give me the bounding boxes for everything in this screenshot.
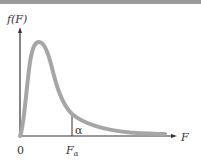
- x-axis-arrow-icon: [171, 134, 177, 138]
- critical-value-base: F: [66, 144, 74, 157]
- x-axis-label: F: [181, 132, 189, 143]
- f-distribution-plot: [0, 0, 201, 162]
- critical-value-subscript: α: [74, 150, 79, 158]
- x-tick-zero: 0: [17, 145, 24, 156]
- y-axis-label: f(F): [7, 14, 27, 25]
- y-axis-arrow-icon: [18, 27, 22, 33]
- x-tick-critical-value: Fα: [66, 145, 78, 158]
- density-curve: [20, 42, 165, 136]
- tail-area-alpha-label: α: [75, 125, 82, 136]
